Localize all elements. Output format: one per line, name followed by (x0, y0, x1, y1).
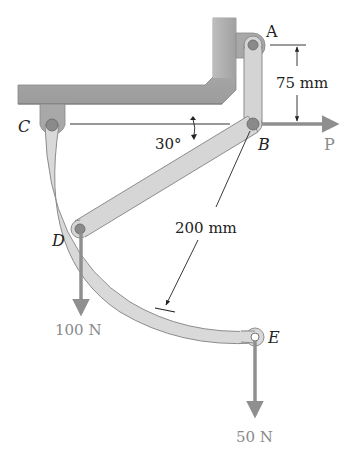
label-p: P (324, 135, 335, 154)
pin-d (75, 224, 85, 234)
label-50n: 50 N (236, 428, 273, 446)
pin-b (247, 118, 259, 130)
label-d: D (51, 231, 65, 250)
pin-c (46, 119, 58, 131)
fixed-frame (18, 18, 236, 104)
angle-marker (190, 116, 197, 140)
label-b: B (257, 135, 270, 154)
label-a: A (265, 22, 278, 41)
label-75mm: 75 mm (276, 74, 328, 92)
label-30deg: 30° (155, 135, 182, 153)
label-100n: 100 N (55, 321, 102, 339)
label-c: C (18, 117, 30, 136)
mechanism-diagram: A B C D E 75 mm 200 mm 30° P 100 N 50 N (0, 0, 360, 462)
label-e: E (267, 328, 280, 347)
label-200mm: 200 mm (175, 219, 237, 237)
pin-e (251, 333, 259, 341)
pin-a (248, 40, 258, 50)
